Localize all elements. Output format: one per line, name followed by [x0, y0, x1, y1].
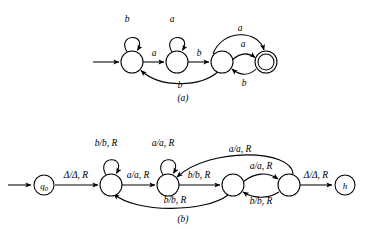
edge-label-a-21: b [178, 80, 183, 90]
transition-a4-a3: b [232, 69, 256, 88]
fsm-diagram-svg: b a a b b a b [0, 0, 367, 229]
transition-b3-b4: a/a, R [243, 161, 278, 182]
panel-a: b a a b b a b [93, 14, 277, 104]
state-b1 [100, 174, 122, 196]
fsm-figure: b a a b b a b [0, 0, 367, 229]
caption-b: (b) [177, 214, 188, 225]
edge-label-a-loop2: a [170, 14, 175, 24]
transition-a2-a3: b [188, 48, 209, 62]
transition-b2-b2: a/a, R [152, 138, 176, 175]
transition-a2-a2: a [170, 14, 185, 52]
edge-label-a-43: b [242, 78, 247, 88]
transition-b4-b3: b/b, R [243, 192, 279, 206]
state-b3 [222, 174, 244, 196]
state-a3 [211, 51, 233, 73]
transition-a3-a4-short: a [232, 39, 255, 60]
transition-a3-a4-long: a [213, 23, 264, 54]
edge-label-b-34: a/a, R [250, 161, 273, 171]
state-a2 [166, 51, 188, 73]
panel-b: Δ/Δ, R b/b, R a/a, R a/a, R b/b, R b/b, … [8, 138, 355, 225]
edge-label-b-loop2: a/a, R [152, 138, 175, 148]
edge-label-a-34-long: a [238, 23, 243, 33]
state-h-label: h [343, 181, 348, 191]
state-b2 [157, 174, 179, 196]
edge-label-b-23: b/b, R [188, 170, 211, 180]
transition-a1-a1: b [125, 14, 140, 52]
transition-b1-b1: b/b, R [95, 138, 119, 175]
edge-label-a-23: b [197, 48, 202, 58]
edge-label-b-31: b/b, R [164, 195, 187, 205]
edge-label-b-loop1: b/b, R [95, 138, 118, 148]
edge-label-b-43: b/b, R [250, 196, 273, 206]
edge-label-b-42: a/a, R [229, 144, 252, 154]
transition-b2-b3: b/b, R [179, 170, 220, 185]
state-b0-start: q0 [34, 175, 54, 195]
transition-b4-b5: Δ/Δ, R [300, 170, 332, 185]
edge-label-a-34-short: a [241, 39, 246, 49]
transition-a1-a2: a [143, 48, 164, 62]
transition-b1-b2: a/a, R [122, 170, 155, 185]
caption-a: (a) [177, 93, 188, 104]
edge-label-b-start: Δ/Δ, R [63, 170, 89, 180]
edge-label-b-12: a/a, R [127, 170, 150, 180]
edge-label-b-45: Δ/Δ, R [303, 170, 329, 180]
state-a4-accepting [255, 51, 277, 73]
state-a1 [121, 51, 143, 73]
transition-b3-b1: b/b, R [114, 194, 228, 208]
transition-a2-a1: b [141, 71, 219, 91]
state-b5-halt: h [335, 175, 355, 195]
edge-label-a-loop1: b [125, 14, 130, 24]
state-b4 [278, 174, 300, 196]
transition-b0-b1: Δ/Δ, R [55, 170, 98, 185]
edge-label-a-12: a [152, 48, 157, 58]
